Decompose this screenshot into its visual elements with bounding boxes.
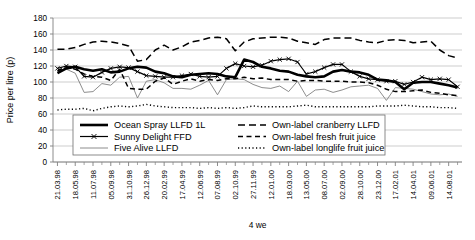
x-tick-label: 17.02.01 <box>391 170 400 200</box>
x-tick-label: 21.03.98 <box>53 170 62 200</box>
x-tick-label: 20.02.99 <box>160 170 169 200</box>
y-tick-label: 60 <box>38 110 48 119</box>
x-tick-label: 07.08.99 <box>213 170 222 200</box>
x-tick-label: 26.12.98 <box>142 170 151 200</box>
legend: Ocean Spray LLFD 1LSunny Delight FFDFive… <box>73 115 385 155</box>
y-tick-label: 140 <box>33 46 47 55</box>
y-tick-label: 160 <box>33 30 47 39</box>
x-tick-group: 21.03.9818.05.9811.07.9805.09.9831.10.98… <box>53 162 457 200</box>
y-tick-label: 0 <box>42 158 47 167</box>
x-tick-label: 05.09.98 <box>107 170 116 200</box>
price-per-litre-line-chart: 02040608010012014016018021.03.9818.05.98… <box>0 0 475 240</box>
x-axis-title: 4 we <box>249 220 267 230</box>
x-tick-label: 02.09.00 <box>338 170 347 200</box>
legend-label: Five Alive LLFD <box>114 143 179 153</box>
x-tick-label: 18.03.00 <box>285 170 294 200</box>
x-tick-label: 31.10.98 <box>125 170 134 200</box>
x-tick-label: 23.12.00 <box>374 170 383 200</box>
x-tick-label: 02.10.99 <box>231 170 240 200</box>
y-tick-label: 40 <box>38 126 48 135</box>
y-axis-title: Price per litre (p) <box>5 57 15 124</box>
x-tick-label: 08.07.00 <box>320 170 329 200</box>
y-tick-label: 20 <box>38 142 48 151</box>
legend-label: Own-label fresh fruit juice <box>272 132 376 142</box>
y-tick-label: 80 <box>38 94 48 103</box>
x-tick-label: 14.04.01 <box>409 170 418 200</box>
x-tick-label: 12.01.00 <box>267 170 276 200</box>
legend-label: Ocean Spray LLFD 1L <box>114 120 205 130</box>
chart-canvas: 02040608010012014016018021.03.9818.05.98… <box>0 0 475 240</box>
x-tick-label: 09.06.01 <box>427 170 436 200</box>
legend-label: Own-label longlife fruit juice <box>272 143 384 153</box>
x-tick-label: 13.05.00 <box>302 170 311 200</box>
x-tick-label: 14.08.01 <box>445 170 454 200</box>
x-tick-label: 17.04.99 <box>178 170 187 200</box>
legend-label: Sunny Delight FFD <box>114 132 192 142</box>
legend-label: Own-label cranberry LLFD <box>272 120 380 130</box>
x-tick-label: 27.11.99 <box>249 170 258 199</box>
x-tick-label: 11.07.98 <box>89 170 98 199</box>
x-tick-label: 28.10.00 <box>356 170 365 200</box>
x-tick-label: 18.05.98 <box>71 170 80 200</box>
y-tick-label: 100 <box>33 78 47 87</box>
y-tick-label: 120 <box>33 62 47 71</box>
y-tick-label: 180 <box>33 14 47 23</box>
x-tick-label: 12.06.99 <box>196 170 205 200</box>
